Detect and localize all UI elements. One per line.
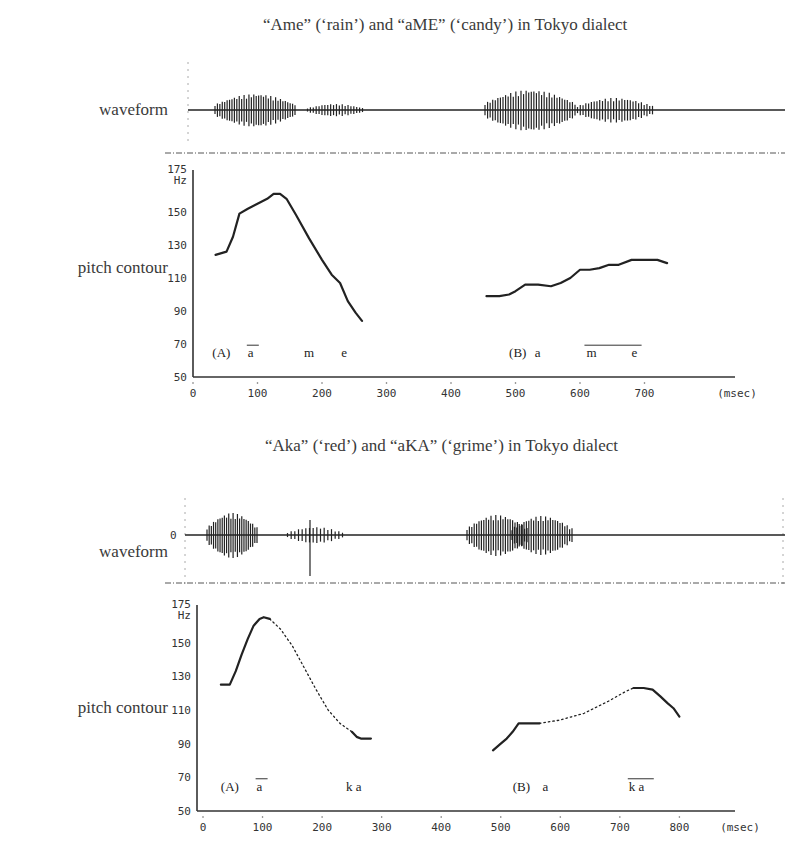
x-tick-label: 300	[377, 387, 397, 400]
segment-label: k a	[629, 779, 645, 794]
x-tick-label: 400	[441, 387, 461, 400]
x-tick-label: 800	[669, 821, 689, 834]
y-tick-label: 50	[178, 805, 191, 818]
figure-canvas: 507090110130150175Hz01002003004005006007…	[0, 0, 790, 857]
pitch-series-line	[539, 688, 633, 723]
y-tick-label: 70	[174, 338, 187, 351]
x-tick-label: 200	[312, 387, 332, 400]
y-tick-label: 110	[171, 704, 191, 717]
pitch-chart-1: 507090110130150175Hz01002003004005006007…	[167, 163, 757, 400]
x-tick-label: 0	[190, 387, 197, 400]
segment-label: m	[304, 345, 314, 360]
x-tick-label: 100	[253, 821, 273, 834]
y-tick-label: 110	[167, 272, 187, 285]
pitch-series-line	[270, 619, 352, 732]
y-tick-label: 90	[174, 305, 187, 318]
pitch-series-line	[493, 723, 539, 750]
y-tick-label: 70	[178, 771, 191, 784]
x-tick-label: 700	[610, 821, 630, 834]
x-axis-label: (msec)	[720, 821, 760, 834]
segment-label: (A)	[212, 345, 230, 360]
x-tick-label: 500	[506, 387, 526, 400]
pitch-series-line	[486, 260, 667, 296]
pitch-series-line	[352, 732, 371, 739]
segment-label: (A)	[221, 779, 239, 794]
segment-label: a	[535, 345, 541, 360]
segment-label: m	[586, 345, 596, 360]
x-axis-label: (msec)	[717, 387, 757, 400]
pitch-series-line	[634, 688, 680, 717]
pitch-series-line	[221, 617, 270, 684]
x-tick-label: 300	[372, 821, 392, 834]
x-tick-label: 200	[312, 821, 332, 834]
x-tick-label: 500	[491, 821, 511, 834]
x-tick-label: 600	[570, 387, 590, 400]
y-unit-label: Hz	[178, 609, 191, 622]
y-tick-label: 150	[171, 637, 191, 650]
segment-label: k a	[346, 779, 362, 794]
waveform-panel-1	[165, 62, 785, 153]
segment-label: (B)	[513, 779, 530, 794]
segment-label: e	[632, 345, 638, 360]
waveform-zero-label: 0	[170, 529, 177, 542]
segment-label: a	[248, 345, 254, 360]
x-tick-label: 0	[200, 821, 207, 834]
y-unit-label: Hz	[174, 174, 187, 187]
y-tick-label: 130	[167, 239, 187, 252]
y-tick-label: 50	[174, 371, 187, 384]
x-tick-label: 700	[635, 387, 655, 400]
segment-label: a	[542, 779, 548, 794]
y-tick-label: 130	[171, 670, 191, 683]
waveform-panel-2: 0	[165, 498, 785, 588]
pitch-series-line	[216, 194, 362, 321]
x-tick-label: 400	[431, 821, 451, 834]
x-tick-label: 100	[248, 387, 268, 400]
segment-label: (B)	[509, 345, 526, 360]
y-tick-label: 90	[178, 738, 191, 751]
x-tick-label: 600	[550, 821, 570, 834]
y-tick-label: 150	[167, 206, 187, 219]
segment-label: e	[341, 345, 347, 360]
pitch-chart-2: 507090110130150175Hz01002003004005006007…	[171, 598, 760, 834]
segment-label: a	[257, 779, 263, 794]
